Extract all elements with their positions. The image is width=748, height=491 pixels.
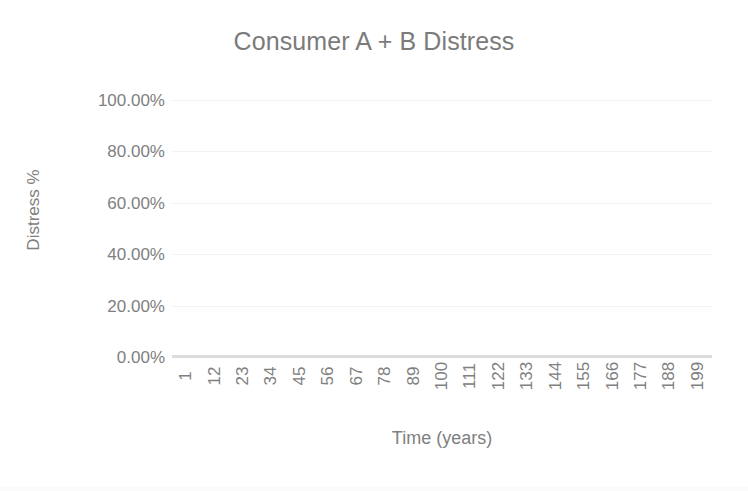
y-axis-tick-label: 40.00% <box>0 246 165 263</box>
x-axis-tick-label: 144 <box>546 348 566 404</box>
x-axis-tick-label: 1 <box>176 348 196 404</box>
x-axis-tick-label: 23 <box>233 348 253 404</box>
y-axis-tick-label: 0.00% <box>0 349 165 366</box>
y-axis-tick-label: 100.00% <box>0 92 165 109</box>
y-axis-tick-labels: 100.00%80.00%60.00%40.00%20.00%0.00% <box>0 100 165 357</box>
scan-artifact <box>0 487 748 491</box>
x-axis-tick-labels: 1122334455667788910011112213314415516617… <box>172 366 712 422</box>
x-axis-tick-label: 155 <box>574 348 594 404</box>
x-axis-title: Time (years) <box>172 428 712 449</box>
x-axis-tick-label: 89 <box>404 348 424 404</box>
x-axis-tick-label: 12 <box>205 348 225 404</box>
y-axis-tick-label: 60.00% <box>0 195 165 212</box>
gridline <box>172 203 712 204</box>
x-axis-tick-label: 188 <box>659 348 679 404</box>
x-axis-tick-label: 78 <box>375 348 395 404</box>
x-axis-tick-label: 199 <box>688 348 708 404</box>
x-axis-tick-label: 166 <box>603 348 623 404</box>
gridline <box>172 254 712 255</box>
x-axis-tick-label: 177 <box>631 348 651 404</box>
chart-title: Consumer A + B Distress <box>0 27 748 56</box>
x-axis-tick-label: 122 <box>489 348 509 404</box>
x-axis-tick-label: 56 <box>318 348 338 404</box>
y-axis-tick-label: 20.00% <box>0 298 165 315</box>
x-axis-tick-label: 67 <box>347 348 367 404</box>
gridline <box>172 306 712 307</box>
gridline <box>172 100 712 101</box>
x-axis-tick-label: 45 <box>290 348 310 404</box>
plot-area <box>172 100 712 357</box>
gridline <box>172 151 712 152</box>
x-axis-tick-label: 111 <box>460 348 480 404</box>
x-axis-tick-label: 34 <box>261 348 281 404</box>
x-axis-tick-label: 133 <box>517 348 537 404</box>
chart-figure: Consumer A + B Distress Distress % 100.0… <box>0 0 748 491</box>
y-axis-tick-label: 80.00% <box>0 143 165 160</box>
x-axis-tick-label: 100 <box>432 348 452 404</box>
